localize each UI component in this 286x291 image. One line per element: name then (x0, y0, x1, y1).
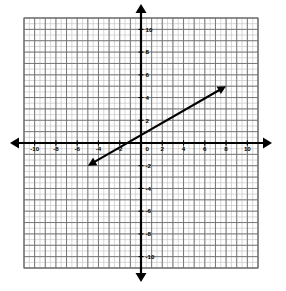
y-tick-label: -6 (146, 207, 152, 214)
x-tick-label: 6 (203, 145, 207, 152)
x-tick-label: -8 (53, 145, 59, 152)
y-tick-label: 4 (146, 94, 150, 101)
x-tick-label: -4 (96, 145, 102, 152)
x-tick-label: -6 (74, 145, 80, 152)
y-tick-label: 8 (146, 48, 150, 55)
x-tick-label: 2 (161, 145, 165, 152)
x-tick-label: 10 (244, 145, 251, 152)
y-tick-label: -4 (146, 185, 152, 192)
x-tick-label: 4 (182, 145, 186, 152)
y-tick-label: -2 (146, 162, 152, 169)
y-tick-label: 2 (146, 117, 150, 124)
y-tick-label: 10 (146, 26, 153, 33)
y-tick-label: 6 (146, 71, 150, 78)
graph-canvas: -10-8-6-4-2246810108642-2-4-6-8-100 (0, 0, 286, 291)
y-tick-label: -8 (146, 230, 152, 237)
x-tick-label: 8 (224, 145, 228, 152)
x-tick-label: -10 (30, 145, 40, 152)
coordinate-plane-figure: -10-8-6-4-2246810108642-2-4-6-8-100 (0, 0, 286, 291)
y-tick-label: -10 (146, 253, 156, 260)
origin-label: 0 (146, 145, 150, 152)
